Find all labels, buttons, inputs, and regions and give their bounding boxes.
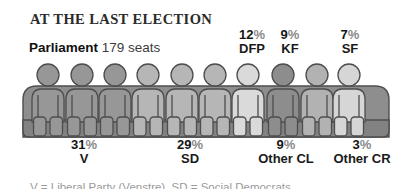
label-sd: 29% SD — [177, 138, 203, 165]
percent-sign: % — [288, 27, 300, 42]
percent-sign: % — [348, 27, 360, 42]
label-sf-name: SF — [341, 42, 360, 56]
label-sf: 7% SF — [341, 28, 360, 55]
percent-sign: % — [85, 137, 97, 152]
label-sd-name: SD — [177, 152, 203, 166]
percent-sign: % — [191, 137, 203, 152]
label-sd-percent: 29 — [177, 137, 191, 152]
footnote-party-key: V = Liberal Party (Venstre), SD = Social… — [30, 181, 291, 189]
figure-head — [71, 64, 93, 86]
label-dfp-name: DFP — [239, 42, 265, 56]
figure-body-part — [50, 117, 63, 136]
figure-head — [204, 64, 226, 86]
percent-sign: % — [360, 137, 372, 152]
label-other-cl-name: Other CL — [258, 152, 314, 166]
figure-head — [306, 64, 328, 86]
figure-body-part — [84, 117, 97, 136]
label-other-cr-name: Other CR — [333, 152, 390, 166]
figure-body-part — [201, 117, 214, 136]
label-v-name: V — [71, 152, 97, 166]
figure-body-part — [335, 117, 348, 136]
figure-body-part — [134, 117, 147, 136]
percent-sign: % — [253, 27, 265, 42]
figure-body-part — [117, 117, 130, 136]
figure-body-part — [303, 117, 316, 136]
figure-head — [237, 64, 259, 86]
label-v-percent: 31 — [71, 137, 85, 152]
label-other-cr: 3% Other CR — [333, 138, 390, 165]
label-other-cl-percent: 9 — [277, 137, 284, 152]
figure-body-part — [285, 117, 298, 136]
figure-body-part — [250, 117, 263, 136]
figure-body-part — [184, 117, 197, 136]
label-dfp-percent: 12 — [239, 27, 253, 42]
figure-head — [338, 64, 360, 86]
figure-body-part — [234, 117, 247, 136]
figure-body-part — [101, 117, 114, 136]
label-kf: 9% KF — [281, 28, 300, 55]
figure-body-part — [217, 117, 230, 136]
figure-body-part — [351, 117, 364, 136]
label-kf-name: KF — [281, 42, 300, 56]
figure-body-part — [319, 117, 332, 136]
election-pictogram-chart: AT THE LAST ELECTION Parliament 179 seat… — [0, 0, 397, 189]
figure-head — [37, 64, 59, 86]
figure-head — [272, 64, 294, 86]
label-other-cl: 9% Other CL — [258, 138, 314, 165]
label-v: 31% V — [71, 138, 97, 165]
figure-body-part — [150, 117, 163, 136]
figure-body-part — [68, 117, 81, 136]
figure-body-part — [34, 117, 47, 136]
figure-head — [171, 64, 193, 86]
figure-body-part — [269, 117, 282, 136]
label-dfp: 12% DFP — [239, 28, 265, 55]
figure-head — [137, 64, 159, 86]
percent-sign: % — [284, 137, 296, 152]
figure-head — [104, 64, 126, 86]
figure-body-part — [168, 117, 181, 136]
